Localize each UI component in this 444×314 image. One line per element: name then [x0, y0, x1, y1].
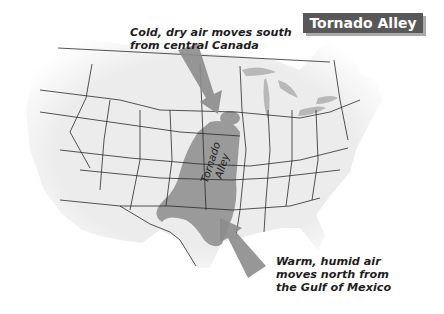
warm-air-caption: Warm, humid air moves north from the Gul…	[276, 255, 391, 294]
warm-air-caption-line1: Warm, humid air	[276, 255, 391, 268]
warm-air-caption-line3: the Gulf of Mexico	[276, 281, 391, 294]
warm-air-caption-line2: moves north from	[276, 268, 391, 281]
cold-air-caption: Cold, dry air moves south from central C…	[130, 26, 292, 52]
cold-air-caption-line1: Cold, dry air moves south	[130, 26, 292, 39]
small-shaded-area	[220, 111, 240, 125]
map-title: Tornado Alley	[303, 13, 423, 33]
cold-air-caption-line2: from central Canada	[130, 39, 292, 52]
